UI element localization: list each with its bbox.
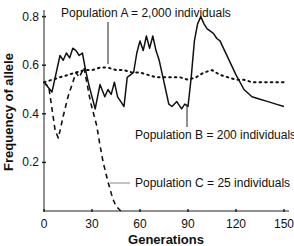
x-tick-label: 90 <box>181 217 195 231</box>
population-c-line <box>44 68 121 211</box>
x-tick-label: 60 <box>133 217 147 231</box>
allele-frequency-chart: 03060901201500.20.40.60.8GenerationsFreq… <box>0 0 294 246</box>
annotation-population-c: Population C = 25 individuals <box>135 176 290 190</box>
x-tick-label: 0 <box>41 217 48 231</box>
x-tick-label: 120 <box>226 217 246 231</box>
x-tick-label: 30 <box>85 217 99 231</box>
annotation-population-b: Population B = 200 individuals <box>135 128 294 142</box>
x-tick-label: 150 <box>274 217 294 231</box>
y-tick-label: 0.2 <box>22 155 39 169</box>
population-b-line <box>44 17 284 109</box>
x-axis-title: Generations <box>128 232 204 246</box>
y-axis-title: Frequency of allele <box>1 53 16 171</box>
annotation-population-a: Population A = 2,000 individuals <box>61 6 231 20</box>
y-tick-label: 0.4 <box>22 107 39 121</box>
y-tick-label: 0.6 <box>22 58 39 72</box>
y-tick-label: 0.8 <box>22 10 39 24</box>
